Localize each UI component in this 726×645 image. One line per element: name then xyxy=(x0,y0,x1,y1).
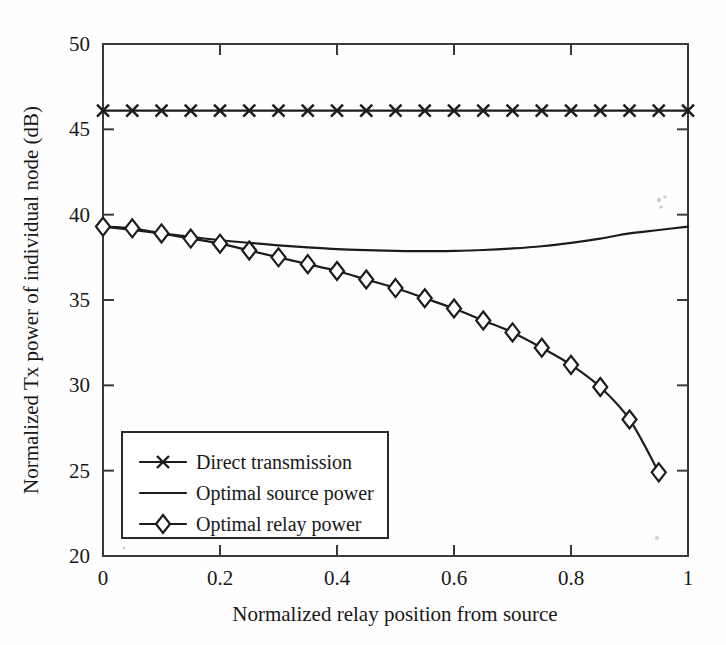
diamond-marker xyxy=(593,378,607,396)
diamond-marker xyxy=(213,235,227,253)
legend-item-label: Optimal relay power xyxy=(196,513,362,536)
diamond-marker xyxy=(652,463,666,481)
diamond-marker xyxy=(330,262,344,280)
diamond-marker xyxy=(125,219,139,237)
x-axis-tick-labels: 00.20.40.60.81 xyxy=(98,566,694,590)
x-axis-title: Normalized relay position from source xyxy=(232,602,557,626)
diamond-marker xyxy=(359,271,373,289)
legend-item-label: Optimal source power xyxy=(196,482,374,505)
x-tick-label: 0.2 xyxy=(207,566,233,590)
data-series-group xyxy=(96,105,694,482)
diamond-marker xyxy=(154,224,168,242)
x-tick-label: 0 xyxy=(98,566,109,590)
y-tick-label: 25 xyxy=(69,459,90,483)
x-tick-label: 0.4 xyxy=(324,566,351,590)
y-tick-label: 30 xyxy=(69,373,90,397)
x-tick-label: 0.6 xyxy=(441,566,467,590)
y-tick-label: 45 xyxy=(69,117,90,141)
x-tick-label: 0.8 xyxy=(558,566,584,590)
series-direct-transmission xyxy=(97,105,694,117)
y-tick-label: 50 xyxy=(69,32,90,56)
diamond-marker xyxy=(184,230,198,248)
x-tick-label: 1 xyxy=(683,566,694,590)
diamond-marker xyxy=(476,311,490,329)
diamond-marker xyxy=(564,356,578,374)
legend-item-label: Direct transmission xyxy=(196,451,352,473)
diamond-marker xyxy=(418,289,432,307)
diamond-marker xyxy=(271,248,285,266)
y-axis-tick-labels: 20253035404550 xyxy=(69,32,90,568)
diamond-marker xyxy=(388,279,402,297)
chart-canvas: 20253035404550 00.20.40.60.81 Normalized… xyxy=(0,0,726,645)
diamond-marker xyxy=(96,218,110,236)
diamond-marker xyxy=(505,323,519,341)
diamond-marker xyxy=(447,300,461,318)
figure-container: 20253035404550 00.20.40.60.81 Normalized… xyxy=(0,0,726,645)
y-tick-label: 20 xyxy=(69,544,90,568)
diamond-marker xyxy=(535,339,549,357)
y-tick-label: 35 xyxy=(69,288,90,312)
y-tick-label: 40 xyxy=(69,203,90,227)
y-axis-title: Normalized Tx power of individual node (… xyxy=(19,106,43,494)
diamond-marker xyxy=(301,255,315,273)
chart-legend[interactable]: Direct transmissionOptimal source powerO… xyxy=(122,432,388,538)
